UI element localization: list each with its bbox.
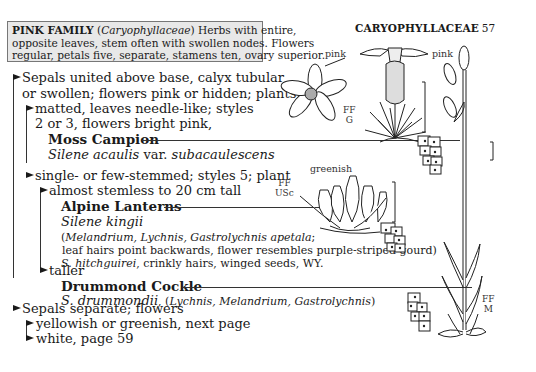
key-arrow-icon xyxy=(13,305,21,311)
page-header: CARYOPHYLLACEAE57 xyxy=(355,22,495,34)
species-drummond-cockle-common: Drummond Cockle xyxy=(61,278,202,294)
key-arrow-icon xyxy=(13,74,21,80)
key-bracket-a xyxy=(13,78,14,278)
drummond-cockle-cell-diagram xyxy=(407,292,433,332)
key-lead-c1-line1: almost stemless to 20 cm tall xyxy=(49,183,241,199)
species-moss-campion-common: Moss Campion xyxy=(48,131,159,147)
species-alpine-lanterns-common: Alpine Lanterns xyxy=(61,198,182,214)
drummond-cockle-plant-illustration xyxy=(430,42,530,342)
key-bracket-c xyxy=(40,188,41,270)
key-arrow-icon xyxy=(40,187,48,193)
key-lead-b1-line1: matted, leaves needle-like; styles xyxy=(35,101,254,117)
key-arrow-icon xyxy=(26,335,34,341)
key-lead-d2-line1: white, page 59 xyxy=(36,331,134,347)
species-alpine-lanterns-scientific: Silene kingii xyxy=(61,214,143,230)
family-description-line1: Herbs with entire, xyxy=(195,24,297,36)
family-latin-name: Caryophyllaceae xyxy=(101,24,190,36)
alpine-lanterns-range-code: FFUSc xyxy=(275,178,294,198)
key-lead-a2-line1: Sepals separate; flowers xyxy=(22,301,184,317)
key-arrow-icon xyxy=(40,267,48,273)
page-header-family: CARYOPHYLLACEAE xyxy=(355,22,479,34)
family-description-line3: regular, petals five, separate, stamens … xyxy=(12,49,258,62)
leader-line-drummond-cockle xyxy=(182,287,472,288)
key-lead-c2-line1: taller xyxy=(49,263,84,279)
species-hitchguirei-note: S. hitchguirei, crinkly hairs, winged se… xyxy=(61,256,323,272)
key-arrow-icon xyxy=(26,172,34,178)
key-lead-a1-line1: Sepals united above base, calyx tubular xyxy=(22,70,284,86)
key-lead-b2-line1: single- or few-stemmed; styles 5; plant xyxy=(35,168,290,184)
key-arrow-icon xyxy=(26,105,34,111)
page-number: 57 xyxy=(482,22,496,34)
family-description-line2: opposite leaves, stem often with swollen… xyxy=(12,37,258,50)
family-title: PINK FAMILY xyxy=(12,24,94,36)
key-lead-a1-line2: or swollen; flowers pink or hidden; plan… xyxy=(22,86,296,102)
key-lead-b1-line2: 2 or 3, flowers bright pink, xyxy=(35,116,212,132)
key-arrow-icon xyxy=(26,320,34,326)
key-lead-d1-line1: yellowish or greenish, next page xyxy=(36,316,250,332)
family-description-box: PINK FAMILY (Caryophyllaceae) Herbs with… xyxy=(7,21,263,62)
species-moss-campion-scientific: Silene acaulis var. subacaulescens xyxy=(48,147,275,163)
key-bracket-b xyxy=(26,108,27,163)
alpine-lanterns-cell-diagram xyxy=(380,222,406,252)
